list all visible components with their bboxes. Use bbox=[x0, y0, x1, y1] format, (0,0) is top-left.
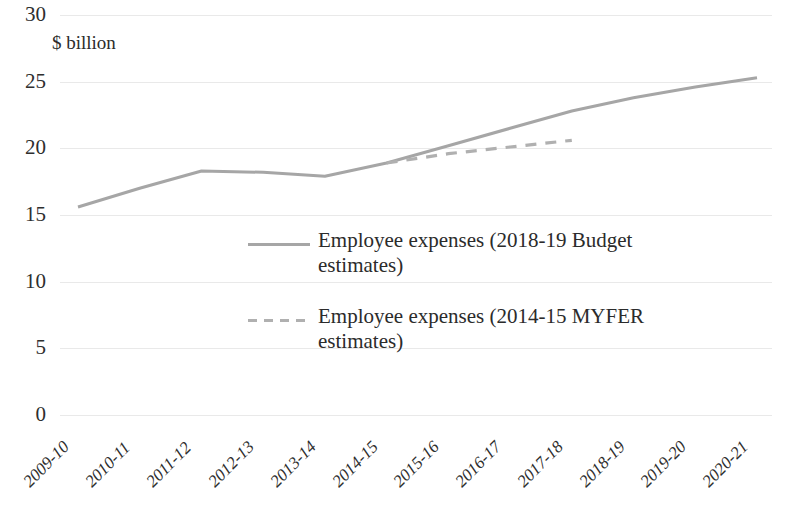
x-axis-tick-label: 2013-14 bbox=[267, 438, 319, 490]
x-axis-tick-label: 2010-11 bbox=[82, 439, 133, 490]
legend-label: Employee expenses (2018-19 Budget estima… bbox=[318, 228, 718, 278]
x-axis-tick-labels: 2009-102010-112011-122012-132013-142014-… bbox=[0, 420, 790, 518]
legend-label: Employee expenses (2014-15 MYFER estimat… bbox=[318, 304, 718, 354]
x-axis-tick-label: 2012-13 bbox=[205, 438, 257, 490]
x-axis-tick-label: 2014-15 bbox=[329, 438, 381, 490]
x-axis-tick-label: 2016-17 bbox=[452, 438, 504, 490]
dashed-line-icon bbox=[248, 311, 310, 331]
solid-line-icon bbox=[248, 235, 310, 255]
x-axis-tick-label: 2019-20 bbox=[637, 438, 689, 490]
series-line-1 bbox=[78, 78, 757, 207]
x-axis-tick-label: 2018-19 bbox=[576, 438, 628, 490]
legend-item[interactable]: Employee expenses (2014-15 MYFER estimat… bbox=[248, 304, 718, 354]
series-line-2 bbox=[387, 140, 572, 163]
x-axis-tick-label: 2009-10 bbox=[20, 438, 72, 490]
line-chart: 302520151050 $ billion 2009-102010-11201… bbox=[0, 0, 790, 518]
x-axis-tick-label: 2015-16 bbox=[390, 438, 442, 490]
legend-item[interactable]: Employee expenses (2018-19 Budget estima… bbox=[248, 228, 718, 278]
x-axis-tick-label: 2011-12 bbox=[143, 439, 194, 490]
chart-legend: Employee expenses (2018-19 Budget estima… bbox=[248, 228, 718, 380]
x-axis-tick-label: 2017-18 bbox=[514, 438, 566, 490]
x-axis-tick-label: 2020-21 bbox=[699, 438, 751, 490]
